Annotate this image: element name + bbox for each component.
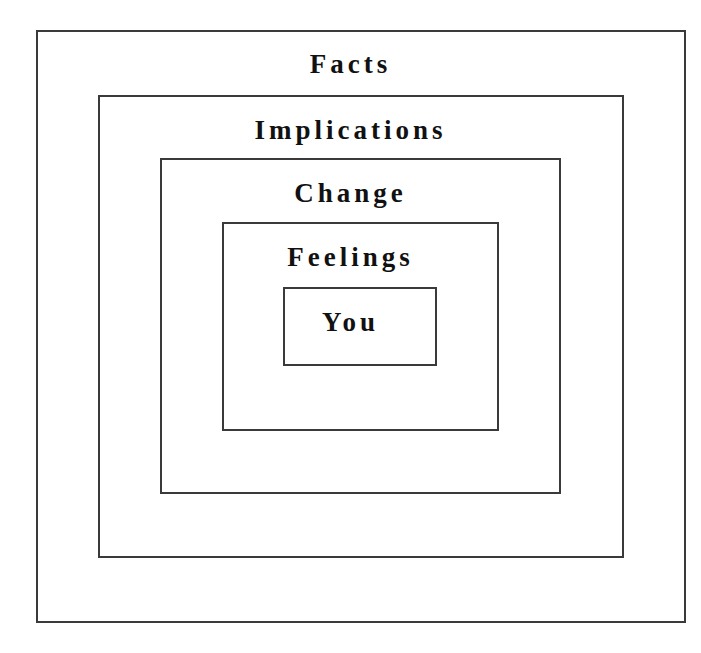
label-facts: Facts: [0, 49, 701, 79]
label-change: Change: [0, 178, 701, 208]
label-implications: Implications: [0, 115, 701, 145]
label-feelings: Feelings: [0, 242, 701, 272]
label-you: You: [0, 307, 701, 337]
